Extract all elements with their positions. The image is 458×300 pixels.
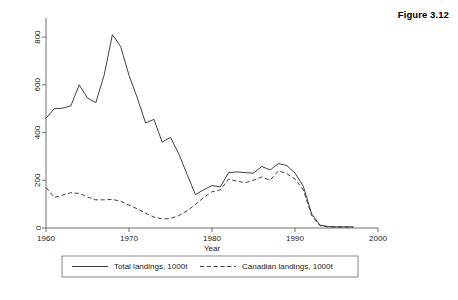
y-tick-label: 0 bbox=[34, 225, 43, 230]
x-tick-label: 1970 bbox=[120, 234, 138, 243]
x-tick-label: 1990 bbox=[286, 234, 304, 243]
line-chart: 0200400600800 19601970198019902000 Year … bbox=[0, 0, 458, 300]
y-tick-label: 600 bbox=[34, 78, 43, 92]
x-tick-label: 2000 bbox=[369, 234, 387, 243]
y-tick-label: 200 bbox=[34, 173, 43, 187]
y-tick-label: 800 bbox=[34, 30, 43, 44]
x-tick-label: 1960 bbox=[37, 234, 55, 243]
x-axis-title: Year bbox=[204, 244, 221, 253]
x-axis-ticks: 19601970198019902000 bbox=[37, 228, 387, 243]
y-tick-label: 400 bbox=[34, 125, 43, 139]
x-tick-label: 1980 bbox=[203, 234, 221, 243]
legend-label-2: Canadian landings, 1000t bbox=[242, 262, 334, 271]
chart-legend: Total landings, 1000tCanadian landings, … bbox=[62, 256, 358, 277]
y-axis-ticks: 0200400600800 bbox=[34, 30, 47, 230]
data-series-group bbox=[46, 35, 353, 227]
series-line-1 bbox=[46, 35, 353, 227]
chart-container: 0200400600800 19601970198019902000 Year … bbox=[0, 0, 458, 300]
legend-label-1: Total landings, 1000t bbox=[114, 262, 188, 271]
